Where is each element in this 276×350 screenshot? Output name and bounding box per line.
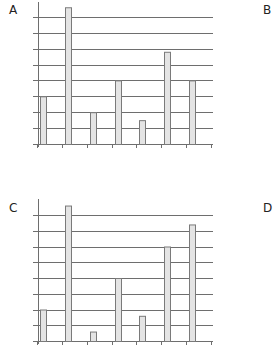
bar: [116, 279, 122, 342]
bar: [165, 247, 171, 342]
bar: [140, 316, 146, 341]
bar: [41, 310, 47, 342]
bar: [91, 332, 97, 341]
bar: [66, 206, 72, 341]
bar-chart-c: [0, 0, 276, 350]
figure: A B C D: [0, 0, 276, 350]
bar: [190, 225, 196, 342]
